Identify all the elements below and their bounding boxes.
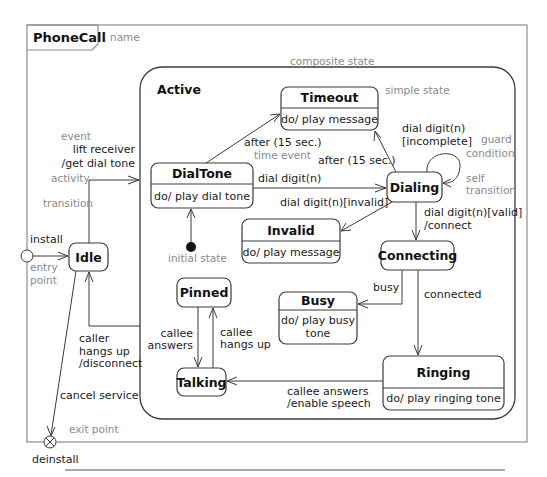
- activity-annotation: activity: [51, 172, 90, 184]
- frame-title: PhoneCall: [33, 30, 106, 45]
- hangs-up-pinned-label: hangs up: [220, 338, 271, 351]
- active-title: Active: [157, 82, 201, 97]
- caller-label: caller: [79, 332, 110, 345]
- install-label: install: [30, 233, 63, 246]
- connected-label: connected: [424, 288, 482, 301]
- state-connecting[interactable]: Connecting: [378, 241, 458, 270]
- ringing-name: Ringing: [417, 365, 471, 380]
- self-transition-annotation-1: self: [466, 172, 485, 184]
- entry-point-annotation-2: point: [30, 274, 57, 286]
- cancel-service-label: cancel service: [60, 389, 139, 402]
- state-idle[interactable]: Idle: [69, 243, 108, 271]
- initial-state-annotation: initial state: [168, 252, 227, 264]
- dialtone-after-label: after (15 sec.): [244, 136, 322, 149]
- transition-caller-hangs-up: [85, 272, 140, 326]
- dial-digit-valid-label: dial digit(n)[valid]: [424, 206, 522, 219]
- exit-point[interactable]: [44, 436, 56, 448]
- arrowhead-icon: [270, 114, 280, 122]
- composite-state-annotation: composite state: [290, 55, 374, 67]
- idle-name: Idle: [75, 250, 101, 265]
- pinned-answers-label: answers: [148, 339, 194, 352]
- simple-state-annotation: simple state: [385, 84, 450, 96]
- disconnect-label: /disconnect: [79, 357, 143, 370]
- dial-digit-label: dial digit(n): [258, 172, 321, 185]
- initial-state[interactable]: [186, 242, 196, 252]
- busy-activity-line1: do/ play busy: [281, 314, 355, 327]
- deinstall-label: deinstall: [32, 453, 79, 466]
- dialing-after-label: after (15 sec.): [318, 154, 396, 167]
- transition-lift-receiver: [89, 176, 139, 243]
- transition-install: [33, 252, 68, 260]
- transition-talking-pinned: [209, 308, 217, 368]
- busy-label: busy: [373, 281, 400, 294]
- transition-ringing-talking: [227, 377, 383, 385]
- busy-name: Busy: [301, 293, 335, 308]
- dialtone-activity: do/ play dial tone: [154, 190, 250, 203]
- transition-dialing-connecting: [412, 202, 420, 240]
- transition-dialtone-dialing: [253, 184, 386, 192]
- event-annotation: event: [61, 130, 91, 142]
- state-invalid[interactable]: Invalid do/ play message: [242, 219, 340, 263]
- state-busy[interactable]: Busy do/ play busy tone: [279, 292, 357, 344]
- ringing-activity: do/ play ringing tone: [386, 392, 501, 405]
- invalid-name: Invalid: [267, 223, 315, 238]
- guard-annotation-2: condition: [466, 147, 515, 159]
- dialing-name: Dialing: [390, 180, 440, 195]
- state-pinned[interactable]: Pinned: [177, 278, 231, 307]
- pinned-name: Pinned: [180, 285, 229, 300]
- timeout-activity: do/ play message: [281, 113, 378, 126]
- state-dialing[interactable]: Dialing: [387, 172, 442, 202]
- busy-activity-line2: tone: [306, 327, 331, 340]
- transition-pinned-talking: [194, 307, 202, 367]
- exit-point-annotation: exit point: [69, 423, 119, 435]
- transition-initial: [187, 209, 195, 242]
- state-machine-diagram: PhoneCall name composite state Active Ti…: [0, 0, 547, 477]
- talking-name: Talking: [176, 375, 226, 390]
- state-timeout[interactable]: Timeout do/ play message: [281, 87, 378, 130]
- connect-label: /connect: [424, 219, 472, 232]
- state-dialtone[interactable]: DialTone do/ play dial tone: [151, 163, 253, 208]
- dial-digit-incomplete-label-2: [incomplete]: [402, 135, 472, 148]
- enable-speech-label: /enable speech: [287, 397, 371, 410]
- state-ringing[interactable]: Ringing do/ play ringing tone: [383, 356, 504, 410]
- timeout-name: Timeout: [301, 90, 359, 105]
- transition-cancel-service: [47, 271, 76, 436]
- connecting-name: Connecting: [378, 248, 458, 263]
- dial-digit-incomplete-label-1: dial digit(n): [402, 122, 465, 135]
- transition-connecting-ringing: [414, 270, 422, 355]
- time-event-annotation: time event: [254, 149, 311, 161]
- dial-digit-invalid-label: dial digit(n)[invalid]: [280, 196, 388, 209]
- lift-receiver-label: lift receiver: [73, 143, 136, 156]
- self-transition-annotation-2: transition: [466, 184, 516, 196]
- invalid-activity: do/ play message: [242, 246, 339, 259]
- get-dial-tone-label: /get dial tone: [62, 157, 136, 170]
- name-annotation: name: [110, 31, 140, 43]
- guard-annotation-1: guard: [481, 133, 512, 145]
- state-talking[interactable]: Talking: [176, 368, 226, 396]
- dialtone-name: DialTone: [172, 166, 232, 181]
- entry-point-annotation-1: entry: [30, 261, 58, 273]
- initial-state-icon: [186, 242, 196, 252]
- transition-annotation: transition: [43, 197, 93, 209]
